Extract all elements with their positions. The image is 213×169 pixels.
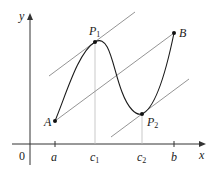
point-p2-label-sub: 2 — [154, 121, 158, 130]
point-a-label: A — [44, 116, 51, 128]
point-p1-label: P1 — [89, 25, 100, 39]
point-p2 — [140, 112, 144, 116]
tick-label-c1: c1 — [90, 151, 99, 165]
tick-label-c1-sub: 1 — [95, 156, 99, 165]
y-axis-arrow-icon — [27, 13, 33, 20]
tick-label-c2: c2 — [137, 151, 146, 165]
y-axis-label: y — [19, 10, 24, 22]
origin-label: 0 — [19, 150, 25, 162]
tick-label-a: a — [51, 151, 57, 163]
point-a — [53, 119, 57, 123]
tick-label-b: b — [171, 151, 177, 163]
point-b-label: B — [179, 27, 186, 39]
point-b — [172, 31, 176, 35]
x-axis-arrow-icon — [199, 141, 206, 147]
point-p1-label-sub: 1 — [96, 30, 100, 39]
point-p2-label: P2 — [147, 116, 158, 130]
secant-line-ab — [55, 33, 174, 121]
point-p1 — [93, 40, 97, 44]
x-axis-label: x — [199, 149, 204, 161]
tick-label-c2-sub: 2 — [142, 156, 146, 165]
